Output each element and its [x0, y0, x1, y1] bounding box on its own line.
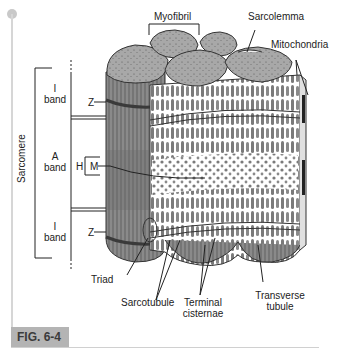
label-i-band-top-word: band	[40, 94, 70, 105]
label-a-band-letter: A	[40, 151, 70, 162]
label-triad: Triad	[91, 274, 113, 285]
label-z-bottom: Z	[88, 227, 94, 238]
label-a-band-word: band	[40, 162, 70, 173]
label-mitochondria: Mitochondria	[271, 39, 328, 50]
label-sarcolemma: Sarcolemma	[248, 11, 304, 22]
sarcolemma-edge	[300, 75, 306, 250]
label-transverse-tubule-line1: Transverse	[250, 290, 310, 301]
label-transverse-tubule-line2: tubule	[250, 301, 310, 312]
label-z-top: Z	[88, 97, 94, 108]
label-i-band-bottom: I band	[40, 221, 70, 243]
myofibril-tops	[107, 30, 292, 86]
label-i-band-bottom-word: band	[40, 232, 70, 243]
label-sarcotubule: Sarcotubule	[121, 297, 174, 308]
label-myofibril: Myofibril	[154, 11, 191, 22]
label-a-band: A band	[40, 151, 70, 173]
label-transverse-tubule: Transverse tubule	[250, 290, 310, 312]
sarcoplasmic-reticulum-body	[150, 75, 300, 266]
figure-label: FIG. 6-4	[11, 327, 69, 347]
label-terminal-cisternae-line1: Terminal	[178, 297, 228, 308]
label-h: H	[76, 161, 83, 172]
label-i-band-bottom-letter: I	[40, 221, 70, 232]
label-i-band-top-letter: I	[40, 83, 70, 94]
label-terminal-cisternae-line2: cisternae	[178, 308, 228, 319]
label-m: M	[90, 161, 98, 172]
label-i-band-top: I band	[40, 83, 70, 105]
label-terminal-cisternae: Terminal cisternae	[178, 297, 228, 319]
label-sarcomere: Sarcomere	[16, 134, 27, 183]
